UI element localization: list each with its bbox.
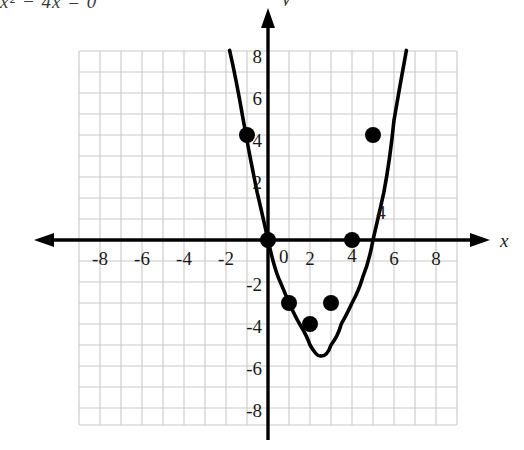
x-tick-label: -8: [92, 248, 108, 269]
label-four-above-axis: 4: [376, 202, 386, 223]
point-3-neg3: [323, 295, 339, 311]
x-tick-label: -2: [218, 248, 234, 269]
y-tick-labels: 8 6 4 2 -2 -4 -6 -8: [246, 46, 262, 421]
y-tick-label: 4: [253, 130, 263, 151]
point-2-neg4: [302, 316, 318, 332]
x-tick-label: 6: [389, 248, 399, 269]
y-tick-label: -8: [246, 400, 262, 421]
x-tick-label: 8: [431, 248, 441, 269]
y-tick-label: -6: [246, 358, 262, 379]
y-tick-label: 2: [253, 172, 263, 193]
point-1-neg3: [281, 295, 297, 311]
y-tick-label: -2: [246, 274, 262, 295]
coordinate-graph: -8 -6 -4 -2 2 4 6 8 0 4 8 6 4 2 -2 -4 -6…: [0, 0, 524, 450]
y-tick-label: -4: [246, 316, 262, 337]
figure-container: x² − 4x = 0: [0, 0, 524, 450]
point-0-0: [260, 232, 276, 248]
origin-label: 0: [279, 246, 289, 267]
y-tick-label: 8: [253, 46, 263, 67]
x-tick-label: 2: [305, 248, 315, 269]
x-tick-label: -6: [134, 248, 150, 269]
x-tick-label: -4: [176, 248, 192, 269]
y-tick-label: 6: [253, 88, 263, 109]
point-5-5: [365, 127, 381, 143]
x-axis-label: x: [499, 230, 509, 251]
y-axis-label: y: [282, 0, 290, 6]
x-tick-label: 4: [347, 245, 357, 266]
